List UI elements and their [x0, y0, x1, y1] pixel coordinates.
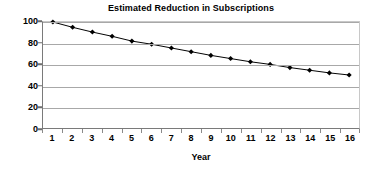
y-axis-tick-label: 100: [0, 17, 38, 26]
x-axis-tick-mark: [201, 129, 202, 133]
x-axis-tick-label: 8: [189, 134, 194, 143]
x-axis-tick-label: 7: [169, 134, 174, 143]
x-axis-tick-label: 12: [266, 134, 276, 143]
x-axis-tick-mark: [141, 129, 142, 133]
x-axis-tick-mark: [161, 129, 162, 133]
x-axis-tick-label: 16: [345, 134, 355, 143]
x-axis-tick-mark: [122, 129, 123, 133]
y-axis-tick-label: 0: [0, 125, 38, 134]
y-axis-tick-label: 40: [0, 81, 38, 90]
data-point-marker: [228, 56, 233, 61]
gridline: [43, 22, 359, 23]
x-axis-tick-label: 13: [285, 134, 295, 143]
x-axis-tick-mark: [320, 129, 321, 133]
x-axis-tick-label: 3: [89, 134, 94, 143]
data-point-marker: [208, 53, 213, 58]
plot-area: [42, 21, 360, 129]
x-axis-tick-mark: [181, 129, 182, 133]
data-point-marker: [90, 30, 95, 35]
data-point-marker: [307, 68, 312, 73]
data-point-marker: [70, 25, 75, 30]
y-axis-tick-labels: 020406080100: [0, 21, 38, 129]
x-axis-tick-mark: [221, 129, 222, 133]
y-axis-tick-label: 80: [0, 38, 38, 47]
data-point-marker: [110, 34, 115, 39]
data-point-marker: [169, 45, 174, 50]
data-point-marker: [327, 70, 332, 75]
x-axis-tick-label: 6: [149, 134, 154, 143]
y-axis-tick-label: 20: [0, 103, 38, 112]
x-axis-tick-mark: [62, 129, 63, 133]
data-series-line: [43, 22, 359, 128]
gridline: [43, 87, 359, 88]
x-axis-tick-mark: [300, 129, 301, 133]
x-axis-tick-mark: [281, 129, 282, 133]
x-axis-tick-mark: [261, 129, 262, 133]
x-axis-tick-label: 14: [305, 134, 315, 143]
x-axis-tick-label: 4: [109, 134, 114, 143]
data-point-marker: [347, 72, 352, 77]
data-point-marker: [189, 49, 194, 54]
x-axis-tick-label: 9: [208, 134, 213, 143]
x-axis-tick-mark: [82, 129, 83, 133]
x-axis-tick-label: 2: [69, 134, 74, 143]
chart-title: Estimated Reduction in Subscriptions: [0, 3, 382, 13]
data-point-marker: [248, 59, 253, 64]
x-axis-title: Year: [42, 152, 360, 162]
gridline: [43, 44, 359, 45]
x-axis-tick-label: 10: [226, 134, 236, 143]
gridline: [43, 108, 359, 109]
x-axis-tick-labels: 12345678910111213141516: [42, 134, 360, 148]
chart-container: Estimated Reduction in Subscriptions 020…: [0, 0, 382, 177]
x-axis-tick-mark: [241, 129, 242, 133]
x-axis-tick-mark: [340, 129, 341, 133]
x-axis-tick-mark: [42, 129, 43, 133]
x-axis-tick-label: 11: [246, 134, 256, 143]
x-axis-tick-label: 5: [129, 134, 134, 143]
y-axis-tick-label: 60: [0, 60, 38, 69]
x-axis-tick-label: 15: [325, 134, 335, 143]
x-axis-tick-mark: [102, 129, 103, 133]
series-line-path: [53, 22, 349, 75]
x-axis-tick-mark: [359, 129, 360, 133]
x-axis-tick-label: 1: [49, 134, 54, 143]
series-markers: [50, 19, 351, 77]
gridline: [43, 65, 359, 66]
